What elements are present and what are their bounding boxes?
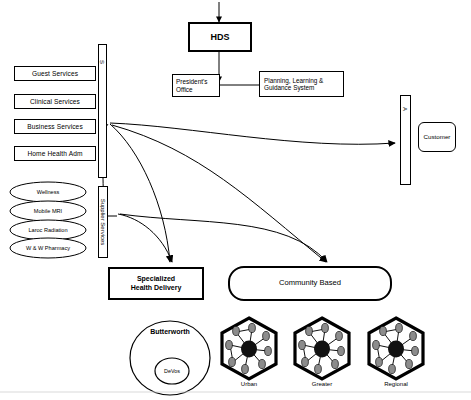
- service-label: Clinical Services: [30, 98, 80, 105]
- supplier-services-bar[interactable]: Supplier Services: [98, 186, 108, 258]
- customer-box[interactable]: Customer: [418, 122, 456, 152]
- specialized-line2: Health Delivery: [131, 284, 182, 293]
- hexagon-text: Urban: [241, 381, 257, 387]
- planning-line2: Guidance System: [264, 84, 314, 91]
- connector-layer: [0, 0, 471, 400]
- presidents-office-line2: Office: [176, 86, 193, 93]
- service-label: Home Health Adm: [27, 150, 82, 157]
- butterworth-text: Butterworth: [150, 328, 190, 335]
- hexagon-label-regional: Regional: [366, 381, 426, 387]
- planning-guidance-box[interactable]: Planning, Learning & Guidance System: [259, 71, 344, 97]
- edge-business-to-customer: [110, 123, 395, 144]
- supplier-services-label: Supplier Services: [100, 199, 106, 246]
- specialized-health-delivery-box[interactable]: Specialized Health Delivery: [108, 267, 204, 300]
- ellipse-text: Laroc Radiation: [28, 227, 67, 233]
- community-based-box[interactable]: Community Based: [228, 266, 392, 301]
- edge-to-community: [112, 125, 326, 262]
- service-label: Guest Services: [32, 70, 78, 77]
- ellipse-label-ww-pharmacy: W & W Pharmacy: [8, 245, 88, 251]
- service-box-business-services[interactable]: Business Services: [14, 119, 96, 134]
- edge-supplier-to-specialized: [118, 214, 172, 262]
- ellipse-text: W & W Pharmacy: [26, 245, 70, 251]
- supplier-bar-top-label: S: [99, 60, 105, 64]
- presidents-office-line1: President's: [176, 78, 207, 85]
- diagram-canvas: HDS President's Office Planning, Learnin…: [0, 0, 471, 400]
- ellipse-text: Mobile MRI: [34, 208, 62, 214]
- service-box-guest-services[interactable]: Guest Services: [14, 66, 96, 81]
- hexagon-network-regional: [369, 318, 423, 379]
- specialized-line1: Specialized: [137, 275, 175, 284]
- service-box-home-health-adm[interactable]: Home Health Adm: [14, 146, 96, 161]
- ellipse-label-mobile-mri: Mobile MRI: [8, 208, 88, 214]
- presidents-office-box[interactable]: President's Office: [172, 74, 220, 97]
- ellipse-text: Wellness: [37, 189, 60, 195]
- devos-text: DeVos: [164, 368, 180, 374]
- devos-label: DeVos: [152, 368, 192, 374]
- hexagon-network-greater: [295, 318, 349, 379]
- service-box-clinical-services[interactable]: Clinical Services: [14, 94, 96, 109]
- ellipse-label-wellness: Wellness: [8, 189, 88, 195]
- hds-label: HDS: [210, 32, 229, 42]
- edge-supplier-to-community: [120, 214, 327, 262]
- service-label: Business Services: [27, 123, 83, 130]
- hds-box[interactable]: HDS: [188, 22, 252, 52]
- ellipse-label-laroc-radiation: Laroc Radiation: [8, 227, 88, 233]
- community-based-label: Community Based: [279, 279, 341, 288]
- planning-line1: Planning, Learning &: [264, 77, 323, 84]
- butterworth-label: Butterworth: [130, 328, 210, 335]
- customer-channel-bar[interactable]: A: [400, 95, 411, 185]
- hexagon-label-greater: Greater: [292, 381, 352, 387]
- hexagon-text: Greater: [312, 381, 332, 387]
- customer-label: Customer: [424, 134, 451, 141]
- hexagon-label-urban: Urban: [219, 381, 279, 387]
- customer-bar-label: A: [402, 107, 408, 111]
- supplier-channel-bar[interactable]: S: [98, 44, 107, 178]
- hexagon-network-urban: [222, 318, 276, 379]
- hexagon-text: Regional: [384, 381, 408, 387]
